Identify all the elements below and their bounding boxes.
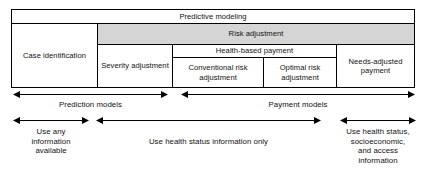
arrow-use-health-status-only bbox=[96, 116, 321, 125]
arrow-use-any-information bbox=[13, 116, 89, 125]
cell-needs-adjusted-payment-label: Needs-adjusted payment bbox=[337, 57, 414, 75]
cell-severity-adjustment: Severity adjustment bbox=[98, 45, 173, 87]
cell-health-based-payment: Health-based payment bbox=[173, 45, 337, 58]
cell-severity-adjustment-label: Severity adjustment bbox=[99, 61, 171, 70]
double-arrow-icon bbox=[13, 90, 168, 99]
arrow-prediction-models bbox=[13, 90, 168, 99]
cell-predictive-modeling-label: Predictive modeling bbox=[177, 12, 248, 21]
cell-case-identification-label: Case identification bbox=[21, 51, 88, 60]
cell-risk-adjustment-label: Risk adjustment bbox=[227, 29, 286, 38]
cell-needs-adjusted-payment: Needs-adjusted payment bbox=[337, 45, 414, 87]
cell-optimal-risk-adjustment-label: Optimal risk adjustment bbox=[264, 63, 336, 81]
double-arrow-icon bbox=[13, 116, 89, 125]
arrow-label-use-health-status-only: Use health status information only bbox=[96, 137, 321, 147]
cell-optimal-risk-adjustment: Optimal risk adjustment bbox=[264, 58, 337, 87]
double-arrow-icon bbox=[181, 90, 415, 99]
double-arrow-icon bbox=[96, 116, 321, 125]
double-arrow-icon bbox=[340, 116, 416, 125]
arrow-payment-models bbox=[181, 90, 415, 99]
cell-health-based-payment-label: Health-based payment bbox=[214, 46, 295, 55]
cell-conventional-risk-adjustment-label: Conventional risk adjustment bbox=[173, 63, 263, 81]
cell-predictive-modeling: Predictive modeling bbox=[12, 10, 414, 24]
arrow-label-use-any-information: Use any information available bbox=[6, 127, 96, 156]
arrow-label-use-health-socioeconomic-access: Use health status, socioeconomic, and ac… bbox=[329, 127, 427, 165]
arrow-label-payment-models: Payment models bbox=[181, 100, 415, 110]
arrow-label-prediction-models: Prediction models bbox=[13, 100, 168, 110]
cell-risk-adjustment: Risk adjustment bbox=[98, 24, 414, 45]
diagram-canvas: Predictive modeling Case identification … bbox=[0, 0, 427, 177]
arrow-use-health-socioeconomic-access bbox=[340, 116, 416, 125]
cell-case-identification: Case identification bbox=[12, 24, 98, 87]
taxonomy-table: Predictive modeling Case identification … bbox=[11, 9, 415, 88]
cell-conventional-risk-adjustment: Conventional risk adjustment bbox=[173, 58, 264, 87]
